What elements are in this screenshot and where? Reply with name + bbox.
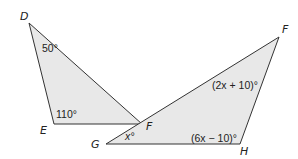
angle-label-f2: (2x + 10)° — [212, 79, 258, 91]
vertex-label-e: E — [40, 124, 47, 137]
angle-label-e: 110° — [56, 108, 77, 120]
triangle-def — [29, 23, 142, 124]
vertex-label-f1: F — [146, 120, 153, 133]
angle-label-g: x° — [124, 130, 134, 142]
vertex-label-h: H — [240, 145, 248, 158]
vertex-label-g: G — [91, 138, 100, 151]
geometry-diagram: D E F 50° 110° F G H (2x + 10)° x° (6x −… — [0, 0, 298, 159]
vertex-label-d: D — [20, 10, 28, 23]
vertex-label-f2: F — [282, 23, 289, 36]
angle-label-d: 50° — [42, 42, 58, 54]
angle-label-h: (6x − 10)° — [191, 132, 237, 144]
